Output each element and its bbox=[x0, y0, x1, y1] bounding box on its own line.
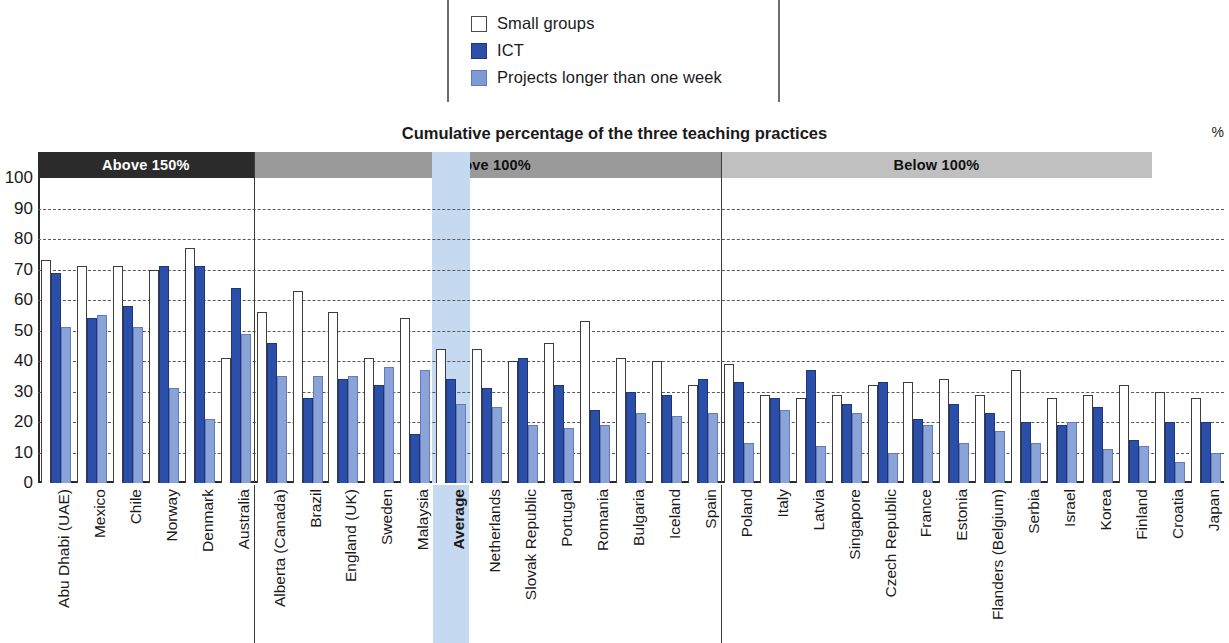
band-header-1: Above 150% bbox=[38, 152, 254, 178]
legend: Small groups ICT Projects longer than on… bbox=[447, 0, 780, 102]
bar bbox=[1191, 398, 1201, 483]
legend-label: ICT bbox=[497, 41, 524, 60]
bar bbox=[1093, 407, 1103, 483]
bar bbox=[580, 321, 590, 483]
bar bbox=[133, 327, 143, 483]
band-header-2: Above 100% bbox=[254, 152, 721, 178]
y-axis-tick-label: 100 bbox=[5, 168, 33, 188]
x-axis-label: Alberta (Canada) bbox=[254, 485, 290, 643]
bar-group bbox=[613, 178, 649, 483]
x-axis-label-text: Bulgaria bbox=[631, 489, 647, 546]
bar bbox=[734, 382, 744, 483]
legend-item-small-groups: Small groups bbox=[471, 10, 778, 37]
bar bbox=[195, 266, 205, 483]
x-axis-label-text: Malaysia bbox=[415, 489, 431, 550]
x-axis-label: Croatia bbox=[1152, 485, 1188, 643]
bar-group bbox=[649, 178, 685, 483]
bar bbox=[313, 376, 323, 483]
x-axis-label-text: Estonia bbox=[954, 489, 970, 541]
x-axis-label-text: Norway bbox=[164, 489, 180, 542]
bar bbox=[923, 425, 933, 483]
bar-group bbox=[505, 178, 541, 483]
bar bbox=[277, 376, 287, 483]
bar bbox=[688, 385, 698, 483]
bar bbox=[564, 428, 574, 483]
x-axis-label: Flanders (Belgium) bbox=[972, 485, 1008, 643]
band-header-row: Above 150%Above 100%Below 100% bbox=[38, 152, 1224, 178]
x-axis-label: Japan bbox=[1188, 485, 1224, 643]
x-axis-label-text: Netherlands bbox=[487, 489, 503, 573]
y-axis-tick-label: 40 bbox=[14, 351, 33, 371]
chart-title: Cumulative percentage of the three teach… bbox=[0, 124, 1229, 143]
legend-item-projects: Projects longer than one week bbox=[471, 64, 778, 91]
bar bbox=[472, 349, 482, 483]
plot-body bbox=[38, 178, 1224, 483]
band-separator-2 bbox=[721, 152, 722, 483]
bar-group bbox=[793, 178, 829, 483]
bar bbox=[770, 398, 780, 483]
x-axis-label: Portugal bbox=[541, 485, 577, 643]
x-axis-label-text: Romania bbox=[595, 489, 611, 551]
bar-group bbox=[1008, 178, 1044, 483]
x-axis-label-text: Sweden bbox=[379, 489, 395, 545]
bar bbox=[544, 343, 554, 483]
x-axis-label-text: Finland bbox=[1134, 489, 1150, 540]
bar-groups bbox=[38, 178, 1224, 483]
bar-group bbox=[721, 178, 757, 483]
bar bbox=[1201, 422, 1211, 483]
bar bbox=[1139, 446, 1149, 483]
x-axis-label: Estonia bbox=[936, 485, 972, 643]
bar bbox=[113, 266, 123, 483]
bar-group bbox=[972, 178, 1008, 483]
x-axis-label-text: Israel bbox=[1062, 489, 1078, 527]
x-axis-label-text: Abu Dhabi (UAE) bbox=[56, 489, 72, 608]
x-axis-label: Romania bbox=[577, 485, 613, 643]
legend-label: Small groups bbox=[497, 14, 595, 33]
bar bbox=[1021, 422, 1031, 483]
x-axis-label: Serbia bbox=[1008, 485, 1044, 643]
bar bbox=[959, 443, 969, 483]
bar-group bbox=[1044, 178, 1080, 483]
bar bbox=[949, 404, 959, 483]
x-axis-label-text: Alberta (Canada) bbox=[272, 489, 288, 607]
bar bbox=[400, 318, 410, 483]
bar bbox=[169, 388, 179, 483]
x-axis-label: Singapore bbox=[829, 485, 865, 643]
x-axis-label-text: Chile bbox=[128, 489, 144, 524]
y-axis-tick-label: 30 bbox=[14, 382, 33, 402]
x-axis-label: Iceland bbox=[649, 485, 685, 643]
bar bbox=[41, 260, 51, 483]
x-axis-label-text: Singapore bbox=[847, 489, 863, 560]
bar bbox=[420, 370, 430, 483]
bar-group bbox=[433, 178, 469, 483]
bar bbox=[482, 388, 492, 483]
y-axis-tick-label: 0 bbox=[24, 473, 33, 493]
bar bbox=[878, 382, 888, 483]
bar bbox=[724, 364, 734, 483]
band-separator-label-1 bbox=[254, 485, 255, 643]
bar bbox=[338, 379, 348, 483]
bar-group bbox=[1152, 178, 1188, 483]
bar bbox=[842, 404, 852, 483]
bar bbox=[985, 413, 995, 483]
x-axis-label-text: Czech Republic bbox=[883, 489, 899, 598]
bar bbox=[456, 404, 466, 483]
bar-group bbox=[685, 178, 721, 483]
y-axis-tick-label: 70 bbox=[14, 260, 33, 280]
bar bbox=[303, 398, 313, 483]
legend-label: Projects longer than one week bbox=[497, 68, 722, 87]
x-axis-label: Finland bbox=[1116, 485, 1152, 643]
bar bbox=[528, 425, 538, 483]
bar bbox=[436, 349, 446, 483]
x-axis-labels: Abu Dhabi (UAE)MexicoChileNorwayDenmarkA… bbox=[38, 485, 1224, 643]
bar bbox=[123, 306, 133, 483]
bar bbox=[1175, 462, 1185, 483]
bar bbox=[698, 379, 708, 483]
x-axis-label-text: France bbox=[918, 489, 934, 537]
y-axis-tick-label: 90 bbox=[14, 199, 33, 219]
x-axis-label-text: Serbia bbox=[1026, 489, 1042, 534]
bar bbox=[185, 248, 195, 483]
y-axis-tick-label: 80 bbox=[14, 229, 33, 249]
bar bbox=[796, 398, 806, 483]
bar bbox=[364, 358, 374, 483]
